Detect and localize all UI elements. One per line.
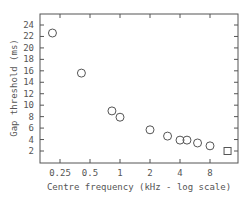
circle-marker <box>164 132 172 140</box>
y-tick-label: 22 <box>23 31 34 41</box>
y-tick-label: 20 <box>23 43 34 53</box>
circle-marker <box>48 29 56 37</box>
y-tick-label: 12 <box>23 89 34 99</box>
y-tick-label: 10 <box>23 100 34 110</box>
x-tick-label: 8 <box>207 168 212 178</box>
circle-marker <box>206 142 214 150</box>
x-tick-label: 4 <box>177 168 182 178</box>
circle-marker <box>116 113 124 121</box>
data-points <box>48 29 231 154</box>
circle-marker <box>194 139 202 147</box>
y-tick-label: 18 <box>23 54 34 64</box>
x-tick-label: 1 <box>117 168 122 178</box>
x-axis: 0.250.51248 <box>49 14 213 178</box>
y-axis: 24681012141618202224 <box>23 20 238 156</box>
circle-marker <box>77 69 85 77</box>
y-tick-label: 6 <box>29 123 34 133</box>
x-tick-label: 0.5 <box>82 168 98 178</box>
y-tick-label: 14 <box>23 77 34 87</box>
x-tick-label: 0.25 <box>49 168 71 178</box>
y-tick-label: 16 <box>23 66 34 76</box>
x-axis-title: Centre frequency (kHz - log scale) <box>47 182 231 192</box>
y-axis-title: Gap threshold (ms) <box>9 39 19 137</box>
y-tick-label: 8 <box>29 112 34 122</box>
y-tick-label: 24 <box>23 20 34 30</box>
circle-marker <box>108 107 116 115</box>
gap-threshold-chart: 24681012141618202224 0.250.51248 Centre … <box>0 0 251 198</box>
square-marker <box>224 148 231 155</box>
x-tick-label: 2 <box>147 168 152 178</box>
circle-marker <box>146 126 154 134</box>
y-tick-label: 4 <box>29 135 34 145</box>
y-tick-label: 2 <box>29 146 34 156</box>
plot-border <box>40 14 238 163</box>
plot-frame <box>40 14 238 163</box>
